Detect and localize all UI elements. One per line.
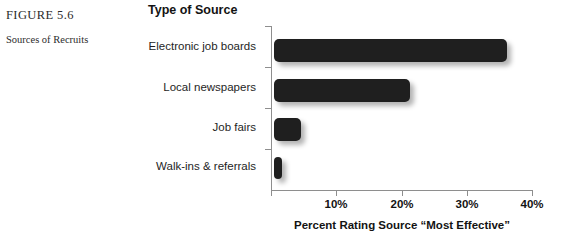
- x-axis-label-40: 40%: [520, 198, 543, 210]
- y-axis-tick: [265, 149, 271, 150]
- bar-chart: Type of Source Electronic job boards Loc…: [0, 0, 567, 243]
- category-label-walk-ins-referrals: Walk-ins & referrals: [62, 160, 262, 172]
- category-label-electronic-job-boards: Electronic job boards: [62, 40, 262, 52]
- chart-title: Type of Source: [148, 3, 237, 17]
- y-axis-tick: [265, 26, 271, 27]
- plot-area: Electronic job boards Local newspapers J…: [271, 26, 533, 190]
- y-axis-tick: [265, 67, 271, 68]
- x-axis-tick-10: [336, 190, 337, 196]
- y-axis-tick: [265, 108, 271, 109]
- y-axis-line: [271, 26, 272, 190]
- bar-local-newspapers: [274, 79, 410, 102]
- category-label-local-newspapers: Local newspapers: [62, 81, 262, 93]
- x-axis-title: Percent Rating Source “Most Effective”: [271, 219, 533, 231]
- x-axis-tick-20: [402, 190, 403, 196]
- x-axis-label-10: 10%: [324, 198, 347, 210]
- x-axis-tick-0: [271, 190, 272, 196]
- bar-job-fairs: [274, 118, 301, 141]
- bar-electronic-job-boards: [274, 39, 507, 62]
- category-label-job-fairs: Job fairs: [62, 121, 262, 133]
- x-axis-label-20: 20%: [390, 198, 413, 210]
- x-axis-label-30: 30%: [455, 198, 478, 210]
- bar-walk-ins-referrals: [274, 157, 282, 179]
- x-axis-tick-40: [532, 190, 533, 196]
- x-axis-tick-30: [467, 190, 468, 196]
